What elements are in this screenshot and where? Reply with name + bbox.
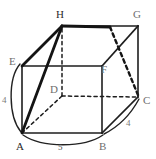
- vertex-label-D: D: [50, 84, 58, 95]
- vertex-label-F: F: [101, 64, 107, 75]
- dimension-label-left-height: 4: [2, 96, 7, 105]
- dimension-label-right-depth: 4: [126, 119, 131, 128]
- edge-A-H-bold: [22, 26, 62, 133]
- bold-edges: [22, 26, 110, 133]
- arc-left-height: [11, 64, 21, 132]
- edge-D-C-dashed: [62, 96, 138, 97]
- vertex-label-E: E: [9, 56, 16, 67]
- prism-drawing: [0, 0, 156, 159]
- edge-H-top-bold: [62, 26, 110, 27]
- vertex-label-C: C: [143, 95, 150, 106]
- vertex-label-H: H: [56, 9, 64, 20]
- vertex-label-B: B: [99, 141, 106, 152]
- edge-H-C-dashed-bold: [110, 27, 138, 95]
- diagonal-H-C: [110, 27, 138, 95]
- hidden-edges: [22, 26, 138, 133]
- vertex-label-G: G: [133, 9, 141, 20]
- visible-edges: [22, 26, 138, 133]
- edge-F-G: [102, 26, 138, 66]
- arc-right-depth: [104, 99, 139, 134]
- edge-B-C: [102, 97, 138, 133]
- dimension-label-bottom-width: 5: [58, 143, 63, 152]
- arc-bottom-width: [23, 135, 103, 145]
- geometry-figure: H G E F D C A B 4 5 4: [0, 0, 156, 159]
- vertex-label-A: A: [16, 141, 24, 152]
